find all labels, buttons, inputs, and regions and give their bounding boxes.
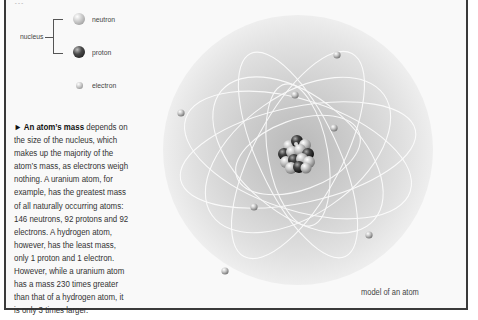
atom-model-illustration <box>0 0 478 320</box>
nucleus-cluster <box>278 135 315 174</box>
figure-caption: model of an atom <box>361 287 419 297</box>
